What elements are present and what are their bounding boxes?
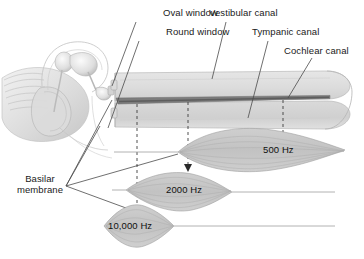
label-frequency-2000hz: 2000 Hz <box>166 184 202 195</box>
arrow-2000hz <box>184 164 192 172</box>
basilar-membrane-line-2: membrane <box>17 184 63 195</box>
label-round-window: Round window <box>166 26 230 37</box>
cochlea-frequency-diagram: Oval window Round window Vestibular cana… <box>0 0 364 259</box>
tympanic-canal-shape <box>115 101 350 129</box>
label-frequency-10000hz: 10,000 Hz <box>108 220 152 231</box>
basilar-membrane-line-1: Basilar <box>25 173 55 184</box>
label-tympanic-canal: Tympanic canal <box>252 26 319 37</box>
label-vestibular-canal: Vestibular canal <box>209 7 278 18</box>
envelope-500hz <box>114 128 345 171</box>
label-cochlear-canal: Cochlear canal <box>284 45 349 56</box>
label-basilar-membrane: Basilar membrane <box>14 173 66 195</box>
diagram-artwork <box>0 0 364 259</box>
label-frequency-500hz: 500 Hz <box>263 144 294 155</box>
uncoiled-cochlea <box>111 71 352 129</box>
middle-ear-illustration <box>2 42 114 158</box>
envelope-2000hz <box>112 173 335 211</box>
